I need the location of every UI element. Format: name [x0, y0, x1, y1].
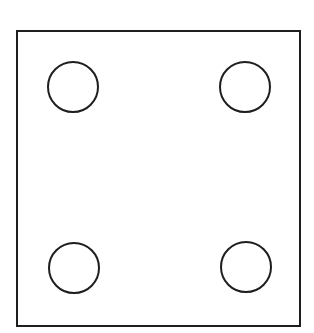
circle-top-left — [48, 62, 98, 112]
circle-top-right — [220, 62, 270, 112]
circle-bottom-right — [221, 242, 271, 292]
circle-bottom-left — [49, 243, 99, 293]
diagram-canvas — [0, 0, 314, 333]
outer-square — [17, 31, 300, 326]
